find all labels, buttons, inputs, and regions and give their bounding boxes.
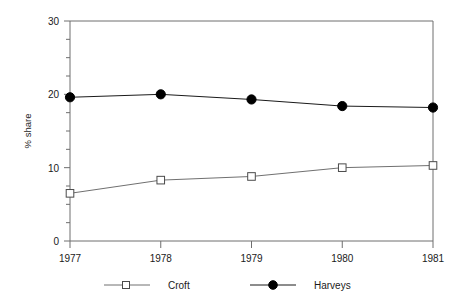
series-croft xyxy=(66,162,437,197)
y-axis-label-30: 30 xyxy=(48,16,60,27)
x-axis-labels: 1977 1978 1979 1980 1981 xyxy=(59,253,445,264)
x-axis-label-1981: 1981 xyxy=(422,253,445,264)
series-harveys xyxy=(65,90,437,112)
x-axis-label-1977: 1977 xyxy=(59,253,82,264)
legend-label-croft: Croft xyxy=(168,280,190,291)
plot-frame xyxy=(70,21,433,241)
data-point-open-square[interactable] xyxy=(248,173,256,181)
data-point-open-square[interactable] xyxy=(429,162,437,170)
data-point-open-square[interactable] xyxy=(157,176,165,184)
filled-circle-icon xyxy=(269,281,278,290)
data-point-filled-circle[interactable] xyxy=(428,103,437,112)
y-axis-label-0: 0 xyxy=(53,236,59,247)
legend-label-harveys: Harveys xyxy=(314,280,351,291)
y-axis-label-10: 10 xyxy=(48,163,60,174)
data-point-filled-circle[interactable] xyxy=(65,93,74,102)
legend-item-harveys[interactable]: Harveys xyxy=(250,280,351,291)
y-axis-title: % share xyxy=(22,114,33,149)
y-axis-labels: 30 20 10 0 xyxy=(48,16,60,247)
data-point-filled-circle[interactable] xyxy=(156,90,165,99)
data-point-filled-circle[interactable] xyxy=(338,101,347,110)
series-layer xyxy=(65,90,437,197)
line-chart: 30 20 10 0 % share 1977 1978 1979 1980 1… xyxy=(0,0,451,304)
x-axis-label-1978: 1978 xyxy=(150,253,173,264)
plot-border xyxy=(70,21,433,241)
chart-container: 30 20 10 0 % share 1977 1978 1979 1980 1… xyxy=(0,0,451,304)
data-point-open-square[interactable] xyxy=(338,164,346,172)
x-axis-label-1980: 1980 xyxy=(331,253,354,264)
x-axis-ticks xyxy=(70,241,433,248)
data-point-filled-circle[interactable] xyxy=(247,95,256,104)
x-axis-label-1979: 1979 xyxy=(240,253,263,264)
y-axis-label-20: 20 xyxy=(48,89,60,100)
legend: Croft Harveys xyxy=(104,280,351,291)
data-point-open-square[interactable] xyxy=(66,190,74,198)
open-square-icon xyxy=(123,282,130,289)
legend-item-croft[interactable]: Croft xyxy=(104,280,190,291)
